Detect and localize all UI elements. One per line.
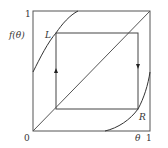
- cobweb-diagram: 1 f(θ) 0 θ 1 L R: [0, 0, 168, 148]
- y-func-label: f(θ): [8, 30, 25, 40]
- point-R-label: R: [138, 112, 146, 122]
- point-L-label: L: [44, 30, 51, 40]
- cycle-rectangle: [56, 33, 138, 109]
- origin-label: 0: [24, 133, 30, 143]
- y-top-label: 1: [25, 9, 31, 19]
- x-right-label: 1: [146, 133, 152, 143]
- arrow-down-icon: [136, 64, 140, 69]
- x-theta-label: θ: [135, 133, 141, 143]
- diagonal-line: [33, 11, 150, 131]
- curve-lower: [105, 72, 150, 131]
- arrow-up-icon: [54, 68, 58, 73]
